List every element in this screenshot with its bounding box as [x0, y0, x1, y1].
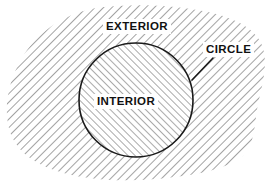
exterior-label: EXTERIOR	[103, 19, 171, 34]
circle-label: CIRCLE	[203, 42, 254, 57]
interior-label: INTERIOR	[94, 94, 158, 109]
figure-canvas: EXTERIOR INTERIOR CIRCLE	[0, 0, 270, 187]
